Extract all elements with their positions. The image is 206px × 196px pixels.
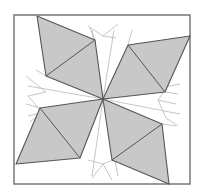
shape-top-left: [37, 16, 103, 99]
construction-line: [28, 92, 46, 96]
construction-line: [88, 160, 103, 164]
construction-line: [26, 104, 40, 108]
construction-line: [158, 100, 166, 118]
construction-line: [26, 76, 46, 92]
quadrilateral: [37, 16, 103, 99]
construction-line: [103, 164, 112, 180]
construction-line: [103, 36, 116, 38]
construction-line: [103, 24, 118, 36]
construction-line: [128, 30, 132, 45]
construction-line: [88, 26, 103, 36]
construction-line: [165, 92, 178, 94]
pinwheel-diagram: [0, 0, 206, 196]
construction-line: [158, 100, 176, 104]
quadrilateral: [16, 99, 103, 164]
shape-top-right: [103, 36, 190, 99]
quadrilateral: [103, 99, 169, 184]
quadrilateral: [103, 36, 190, 99]
construction-line: [162, 124, 176, 126]
center-point: [102, 98, 104, 100]
shape-bottom-left: [16, 99, 103, 164]
construction-line: [36, 70, 46, 76]
shape-bottom-right: [103, 99, 169, 184]
